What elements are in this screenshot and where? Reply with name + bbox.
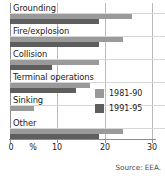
bar-grounding-1991-95 [10,19,99,24]
bar-sinking-1981-90 [10,106,34,111]
x-tick-label-10: 10 [52,143,62,153]
category-label-sinking: Sinking [13,95,43,105]
bar-collision-1991-95 [10,65,52,70]
gridline-30 [152,3,153,139]
source-note: Source: EEA. [115,163,161,172]
category-label-other: Other [13,118,36,128]
legend-swatch-1991-95 [95,104,104,113]
legend-entry-1991-95: 1991-95 [95,103,157,116]
gridline-20 [105,3,106,139]
legend-label-1981-90: 1981-90 [109,88,142,99]
bar-fire-explosion-1991-95 [10,42,99,47]
bar-terminal-operations-1991-95 [10,88,76,93]
x-tick-label-30: 30 [147,143,157,153]
legend-swatch-1981-90 [95,89,104,98]
plot-area: Grounding Fire/explosion Collision Termi… [0,0,165,142]
x-axis-unit-label: % [29,143,37,153]
x-tick-label-0: 0 [8,143,13,153]
legend-label-1991-95: 1991-95 [109,103,142,114]
legend: 1981-90 1991-95 [95,88,157,118]
x-axis: 0 % 10 20 30 [0,140,165,154]
category-label-terminal-operations: Terminal operations [13,72,94,82]
category-label-collision: Collision [13,49,47,59]
category-label-grounding: Grounding [13,3,56,13]
legend-entry-1981-90: 1981-90 [95,88,157,101]
x-tick-label-20: 20 [100,143,110,153]
category-label-fire-explosion: Fire/explosion [13,26,69,36]
bar-chart-figure: Grounding Fire/explosion Collision Termi… [0,0,165,176]
